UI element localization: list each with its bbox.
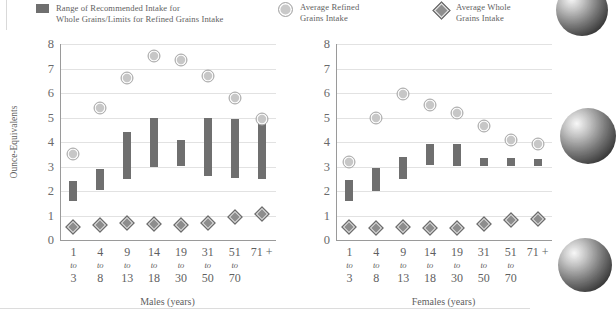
legend-item-range: Range of Recommended Intake for Whole Gr… <box>36 3 224 24</box>
gridline <box>337 44 552 45</box>
x-axis-category-label: 14to18 <box>424 246 436 285</box>
gridline <box>337 191 552 192</box>
plot-area-females: 012345678 <box>336 44 551 240</box>
range-bar <box>150 118 158 167</box>
x-axis-labels-males: 1to34to89to1314to1819to3031to5051to7071 … <box>60 246 275 292</box>
whole-grains-marker <box>422 220 438 236</box>
x-axis-category-label: 19to30 <box>175 246 187 285</box>
y-axis-tick-label: 5 <box>324 111 330 124</box>
y-axis-tick-label: 8 <box>48 38 54 51</box>
x-axis-category-label: 9to13 <box>121 246 133 285</box>
y-axis-title-males: Ounce-Equivalents <box>9 106 19 179</box>
refined-grains-marker <box>477 120 490 133</box>
y-axis-tick-label: 2 <box>48 185 54 198</box>
whole-grains-marker <box>93 218 109 234</box>
whole-grains-marker <box>119 215 135 231</box>
x-axis-labels-females: 1to34to89to1314to1819to3031to5051to7071 … <box>336 246 551 292</box>
whole-grains-marker <box>66 219 82 235</box>
refined-grains-marker <box>504 133 517 146</box>
y-axis-tick-label: 2 <box>324 185 330 198</box>
refined-grains-marker <box>201 69 214 82</box>
refined-grains-marker <box>148 50 161 63</box>
refined-grains-marker <box>424 99 437 112</box>
refined-grains-marker <box>174 53 187 66</box>
legend-item-whole: Average Whole Grains Intake <box>434 2 511 23</box>
x-axis-category-label: 1to3 <box>70 246 77 285</box>
refined-grains-marker <box>255 112 268 125</box>
y-axis-tick-label: 1 <box>48 209 54 222</box>
refined-grains-marker <box>228 91 241 104</box>
gridline <box>61 118 276 119</box>
whole-grains-marker <box>200 215 216 231</box>
y-axis-tick-label: 7 <box>48 62 54 75</box>
range-bar <box>345 180 353 201</box>
range-bar <box>399 157 407 179</box>
x-axis-category-label: 31to50 <box>202 246 214 285</box>
x-axis-line <box>60 240 276 241</box>
gridline <box>337 93 552 94</box>
whole-grains-marker <box>449 220 465 236</box>
legend-label-refined: Average Refined Grains Intake <box>300 2 359 23</box>
gridline <box>61 142 276 143</box>
refined-grains-marker <box>121 72 134 85</box>
y-axis-tick-label: 4 <box>324 136 330 149</box>
refined-grains-marker <box>531 138 544 151</box>
gridline <box>61 69 276 70</box>
x-axis-category-label: 19to30 <box>451 246 463 285</box>
legend-item-refined: Average Refined Grains Intake <box>278 2 359 23</box>
y-axis-tick-label: 5 <box>48 111 54 124</box>
decorative-photo-circle <box>558 238 612 292</box>
refined-grains-marker <box>343 155 356 168</box>
x-axis-category-label: 4to8 <box>373 246 380 285</box>
range-bar <box>507 158 515 167</box>
y-axis-tick-label: 4 <box>48 136 54 149</box>
gridline <box>61 44 276 45</box>
x-axis-category-label: 4to8 <box>97 246 104 285</box>
range-bar <box>69 181 77 201</box>
y-axis-tick-label: 8 <box>324 38 330 51</box>
whole-grains-marker <box>476 216 492 232</box>
refined-grains-marker <box>397 88 410 101</box>
x-axis-category-label: 51to70 <box>505 246 517 285</box>
range-bar <box>372 168 380 191</box>
range-bar <box>453 144 461 166</box>
x-axis-title-females: Females (years) <box>336 296 551 307</box>
y-axis-tick-label: 6 <box>48 87 54 100</box>
chart-panel-males: Ounce-Equivalents 012345678 1to34to89to1… <box>20 44 285 312</box>
range-bar <box>123 132 131 179</box>
y-axis-tick-label: 1 <box>324 209 330 222</box>
range-bar-swatch-icon <box>36 4 49 13</box>
y-axis-tick-label: 3 <box>324 160 330 173</box>
x-axis-category-label: 14to18 <box>148 246 160 285</box>
whole-grains-marker <box>530 211 546 227</box>
x-axis-category-label: 31to50 <box>478 246 490 285</box>
plot-area-males: 012345678 <box>60 44 275 240</box>
x-axis-category-label: 51to70 <box>229 246 241 285</box>
decorative-photo-circle <box>556 0 608 36</box>
range-bar <box>96 169 104 190</box>
gridline <box>61 167 276 168</box>
range-bar <box>231 119 239 178</box>
range-bar <box>204 118 212 177</box>
range-bar <box>480 158 488 167</box>
range-bar <box>426 144 434 165</box>
y-axis-tick-label: 0 <box>324 234 330 247</box>
gridline <box>337 69 552 70</box>
whole-grains-marker <box>395 219 411 235</box>
refined-grains-marker <box>94 101 107 114</box>
whole-grains-marker <box>254 206 270 222</box>
chart-legend: Range of Recommended Intake for Whole Gr… <box>0 0 540 36</box>
y-axis-tick-label: 7 <box>324 62 330 75</box>
x-axis-category-label: 71 + <box>527 246 549 259</box>
gridline <box>61 191 276 192</box>
chart-panel-females: 012345678 1to34to89to1314to1819to3031to5… <box>296 44 561 312</box>
x-axis-line <box>336 240 552 241</box>
x-axis-category-label: 71 + <box>251 246 273 259</box>
x-axis-category-label: 1to3 <box>346 246 353 285</box>
y-axis-tick-label: 0 <box>48 234 54 247</box>
refined-grains-marker <box>370 111 383 124</box>
y-axis-tick-label: 3 <box>48 160 54 173</box>
x-axis-category-label: 9to13 <box>397 246 409 285</box>
range-bar <box>177 140 185 167</box>
gridline <box>337 216 552 217</box>
